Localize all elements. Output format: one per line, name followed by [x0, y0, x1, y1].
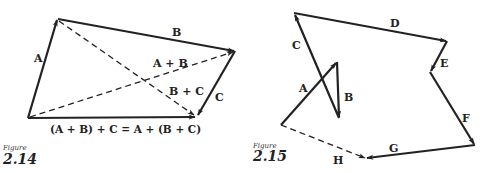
vector-c-arrow	[198, 51, 235, 115]
figure-number: 2.14	[2, 151, 37, 167]
label-c: C	[292, 39, 301, 52]
vector-diagrams: A B C A + B B + C (A + B) + C = A + (B +…	[0, 0, 499, 173]
label-h: H	[333, 154, 343, 167]
label-b: B	[172, 26, 181, 39]
label-a-plus-b: A + B	[152, 57, 188, 70]
vector-g-arrow	[367, 145, 475, 158]
vector-h-dashed	[281, 125, 365, 158]
label-e: E	[440, 57, 448, 70]
label-f: F	[462, 112, 470, 125]
label-a: A	[33, 52, 43, 65]
associativity-equation: (A + B) + C = A + (B + C)	[50, 123, 201, 135]
figure-2-15: A B C D E F G H Figure 2.15	[252, 13, 475, 167]
resultant-arrow	[28, 117, 195, 118]
vector-a-arrow	[28, 20, 57, 118]
label-c: C	[215, 91, 224, 104]
figure-number: 2.15	[252, 148, 287, 164]
vector-d-arrow	[294, 13, 446, 41]
label-b: B	[344, 91, 353, 104]
label-a: A	[298, 82, 308, 95]
figure-2-14: A B C A + B B + C (A + B) + C = A + (B +…	[2, 19, 235, 167]
vector-b-arrow	[58, 19, 234, 51]
label-g: G	[389, 142, 398, 155]
label-b-plus-c: B + C	[169, 85, 204, 98]
label-d: D	[390, 17, 400, 30]
vector-b-arrow	[337, 62, 339, 117]
vector-f-arrow	[430, 72, 474, 144]
